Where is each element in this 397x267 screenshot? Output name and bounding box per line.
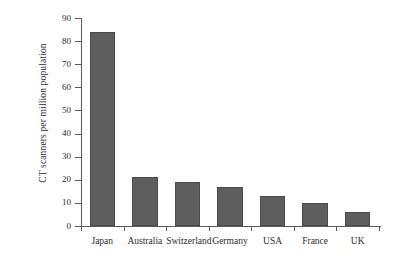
y-tick-label-90: 90 bbox=[31, 14, 71, 23]
x-label-japan: Japan bbox=[81, 235, 124, 247]
x-tick-5 bbox=[294, 227, 295, 231]
bar-usa bbox=[260, 196, 286, 226]
y-tick-90 bbox=[75, 18, 81, 19]
bar-germany bbox=[217, 187, 243, 226]
y-tick-30 bbox=[75, 157, 81, 158]
x-tick-1 bbox=[124, 227, 125, 231]
ct-scanners-bar-chart: CT scanners per million population 01020… bbox=[0, 0, 397, 267]
y-tick-40 bbox=[75, 134, 81, 135]
x-tick-2 bbox=[166, 227, 167, 231]
bar-uk bbox=[345, 212, 371, 226]
y-tick-label-70: 70 bbox=[31, 60, 71, 69]
x-label-australia: Australia bbox=[124, 235, 167, 247]
x-label-germany: Germany bbox=[209, 235, 252, 247]
x-tick-4 bbox=[251, 227, 252, 231]
y-tick-label-0: 0 bbox=[31, 222, 71, 231]
y-tick-10 bbox=[75, 203, 81, 204]
y-tick-label-20: 20 bbox=[31, 175, 71, 184]
y-tick-label-60: 60 bbox=[31, 83, 71, 92]
y-tick-label-50: 50 bbox=[31, 106, 71, 115]
y-tick-label-40: 40 bbox=[31, 129, 71, 138]
y-axis-line bbox=[81, 18, 82, 227]
bar-france bbox=[302, 203, 328, 226]
y-tick-70 bbox=[75, 64, 81, 65]
bar-japan bbox=[90, 32, 116, 226]
x-tick-7 bbox=[379, 227, 380, 231]
x-label-usa: USA bbox=[251, 235, 294, 247]
y-tick-80 bbox=[75, 41, 81, 42]
y-tick-label-80: 80 bbox=[31, 37, 71, 46]
y-tick-50 bbox=[75, 110, 81, 111]
y-tick-label-30: 30 bbox=[31, 152, 71, 161]
x-tick-0 bbox=[81, 227, 82, 231]
y-tick-60 bbox=[75, 87, 81, 88]
y-tick-label-10: 10 bbox=[31, 198, 71, 207]
y-tick-20 bbox=[75, 180, 81, 181]
x-label-france: France bbox=[294, 235, 337, 247]
x-label-uk: UK bbox=[336, 235, 379, 247]
x-tick-3 bbox=[209, 227, 210, 231]
bar-switzerland bbox=[175, 182, 201, 226]
x-label-switzerland: Switzerland bbox=[166, 235, 209, 247]
x-tick-6 bbox=[336, 227, 337, 231]
bar-australia bbox=[132, 177, 158, 226]
